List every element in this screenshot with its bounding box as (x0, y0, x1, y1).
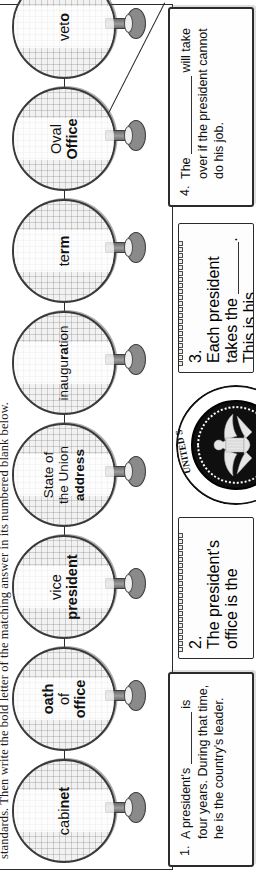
bubble-label-oval-office: OvalOffice (48, 91, 80, 187)
bubble-veto[interactable]: veto (12, 0, 116, 79)
node-state-of-the-union-address[interactable]: State ofthe Unionaddress (12, 423, 116, 527)
question-text-2: The president's office is the . (205, 527, 254, 649)
bubble-state-of-the-union-address[interactable]: State ofthe Unionaddress (12, 423, 116, 527)
answer-blank-2a[interactable] (244, 611, 254, 649)
bubble-oval-office[interactable]: OvalOffice (12, 87, 116, 191)
node-inauguration[interactable]: inauguration (12, 311, 116, 415)
bubble-inauguration[interactable]: inauguration (12, 311, 116, 415)
bubble-label-term: term (56, 203, 72, 299)
node-vice-president[interactable]: vicepresident (12, 535, 116, 639)
bubble-oath-of-office[interactable]: oathofoffice (12, 647, 116, 751)
bubble-label-cabinet: cabinet (56, 763, 72, 859)
answer-blank-2b[interactable] (244, 569, 254, 607)
question-number-2: 2. (187, 527, 205, 649)
question-text-4: The will take over if the president cann… (178, 18, 228, 179)
answer-blank-3[interactable] (226, 242, 239, 294)
bubble-vice-president[interactable]: vicepresident (12, 535, 116, 639)
node-cabinet[interactable]: cabinet (12, 759, 116, 863)
bubble-cabinet[interactable]: cabinet (12, 759, 116, 863)
question-card-2[interactable]: 2. The president's office is the . (178, 517, 254, 659)
answer-blank-4[interactable] (179, 76, 192, 154)
bubble-label-vice-president: vicepresident (48, 539, 80, 635)
cabinet-pointer-line (108, 3, 170, 113)
node-oval-office[interactable]: OvalOffice (12, 87, 116, 191)
spiral-coil-3 (178, 224, 183, 372)
question-card-3[interactable]: 3. Each president takes the . This is hi… (178, 223, 254, 373)
question-card-1[interactable]: 1. A president's is four years. During t… (168, 672, 254, 867)
question-number-1: 1. (178, 846, 192, 856)
question-number-4: 4. (178, 186, 192, 196)
bubble-label-oath-of-office: oathofoffice (40, 651, 89, 747)
question-card-4[interactable]: 4. The will take over if the president c… (168, 7, 254, 207)
bubble-label-state-of-the-union-address: State ofthe Unionaddress (41, 427, 86, 523)
question-text-1: A president's is four years. During that… (178, 683, 228, 839)
bubble-label-inauguration: inauguration (56, 315, 71, 411)
answer-blank-1[interactable] (179, 712, 192, 764)
spiral-coil-2 (178, 518, 183, 658)
rotated-worksheet-page: standards. Then write the bold letter of… (0, 0, 256, 873)
node-veto[interactable]: veto (12, 0, 116, 79)
question-text-3: Each president takes the . This is his p… (205, 233, 254, 363)
worksheet-sheet: standards. Then write the bold letter of… (0, 0, 256, 873)
node-oath-of-office[interactable]: oathofoffice (12, 647, 116, 751)
node-term[interactable]: term (12, 199, 116, 303)
question-number-3: 3. (187, 233, 205, 363)
question-cards: 1. A president's is four years. During t… (168, 0, 256, 873)
bubble-label-veto: veto (56, 0, 72, 75)
vocabulary-chain: cabinet oathofoffice vicepresident (8, 0, 134, 873)
bubble-term[interactable]: term (12, 199, 116, 303)
